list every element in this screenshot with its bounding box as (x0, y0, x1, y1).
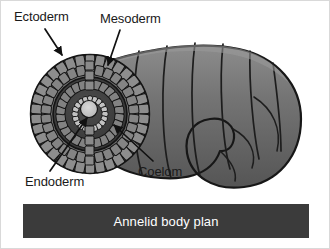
caption-text: Annelid body plan (113, 214, 218, 229)
label-mesoderm: Mesoderm (100, 11, 161, 26)
label-ectoderm: Ectoderm (14, 9, 69, 24)
caption-bar: Annelid body plan (23, 204, 309, 238)
annelid-body-plan-figure: Ectoderm Mesoderm Endoderm Coelom Anneli… (0, 0, 330, 249)
label-coelom: Coelom (138, 164, 182, 179)
label-endoderm: Endoderm (25, 174, 84, 189)
cross-section (31, 55, 150, 174)
gut-lumen (81, 101, 98, 118)
cell (41, 114, 52, 124)
ectoderm-leader (45, 29, 62, 55)
cell (128, 105, 139, 115)
cell (94, 151, 104, 163)
